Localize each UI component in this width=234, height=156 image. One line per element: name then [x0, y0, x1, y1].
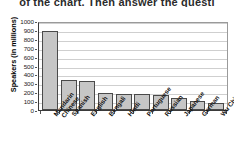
y-axis-tick-label: 800	[24, 37, 34, 43]
y-axis-tick-label: 300	[24, 81, 34, 87]
y-axis-tick-label: 0	[31, 108, 34, 114]
y-axis-tick-label: 200	[24, 90, 34, 96]
x-axis-tick-labels: MandarinChineseSpanishEnglishBengaliHind…	[38, 113, 228, 156]
y-axis-tick-label: 100	[24, 99, 34, 105]
y-axis-tick-label: 600	[24, 55, 34, 61]
y-axis-tick-label: 500	[24, 64, 34, 70]
y-axis-tick-label: 1000	[20, 19, 34, 25]
cut-off-header-text: of the chart. Then answer the questi	[0, 0, 234, 7]
y-axis-tick-labels: 10009008007006005004003002001000	[17, 19, 36, 111]
bar-slot	[133, 23, 151, 110]
chart-page: of the chart. Then answer the questi Spe…	[0, 0, 234, 156]
y-axis-tick-label: 400	[24, 72, 34, 78]
bar-slot	[41, 23, 59, 110]
y-axis-tick-label: 700	[24, 46, 34, 52]
y-axis-tick-label: 900	[24, 28, 34, 34]
bar[interactable]	[42, 31, 58, 110]
